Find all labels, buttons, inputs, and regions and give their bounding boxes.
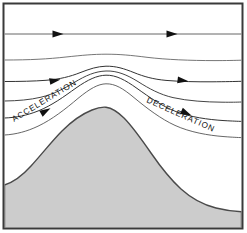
diagram-canvas: ACCELERATIONDECELERATION Airflow streaml…: [0, 0, 247, 233]
airflow-diagram: ACCELERATIONDECELERATION Airflow streaml…: [0, 0, 247, 233]
